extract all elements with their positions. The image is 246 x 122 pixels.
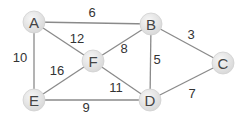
node-d: D	[139, 89, 161, 111]
edge-weight-b-c: 3	[187, 27, 194, 42]
edge-weight-a-f: 12	[70, 31, 84, 46]
node-label: B	[146, 16, 156, 33]
graph-svg: 61210816115397 ABCDEF	[0, 0, 246, 122]
edge-weight-a-b: 6	[88, 5, 95, 20]
node-f: F	[82, 50, 104, 72]
edge-weight-f-e: 16	[50, 63, 64, 78]
node-label: D	[145, 92, 156, 109]
edge-a-b	[34, 22, 151, 24]
edge-weight-b-d: 5	[153, 52, 160, 67]
edge-weight-f-b: 8	[120, 41, 127, 56]
node-label: C	[218, 55, 229, 72]
edge-b-d	[150, 24, 151, 100]
graph-diagram: 61210816115397 ABCDEF	[0, 0, 246, 122]
edge-d-c	[150, 63, 223, 100]
node-label: A	[29, 14, 39, 31]
node-label: E	[29, 92, 39, 109]
nodes-layer: ABCDEF	[23, 11, 234, 111]
node-a: A	[23, 11, 45, 33]
edge-weight-d-c: 7	[188, 86, 195, 101]
node-label: F	[88, 53, 97, 70]
node-c: C	[212, 52, 234, 74]
node-e: E	[23, 89, 45, 111]
node-b: B	[140, 13, 162, 35]
edge-weight-a-e: 10	[13, 50, 27, 65]
edge-weight-f-d: 11	[109, 80, 123, 95]
edge-weight-e-d: 9	[82, 100, 89, 115]
